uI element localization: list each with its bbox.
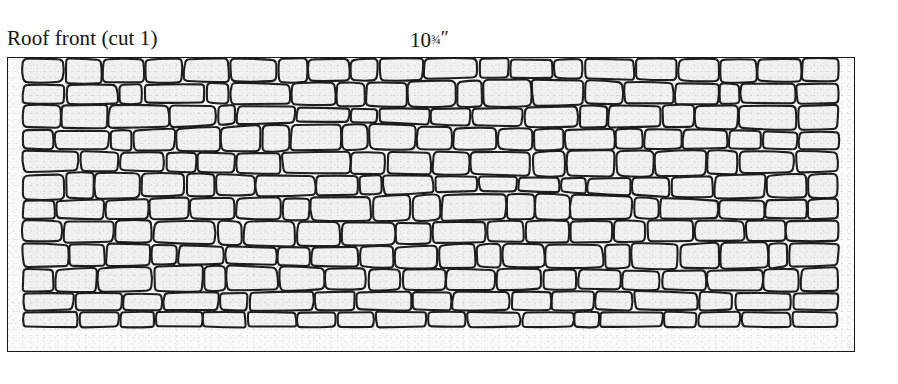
stone-tile xyxy=(61,105,107,128)
stone-tile xyxy=(802,58,839,81)
stone-tile xyxy=(571,221,613,243)
stone-tile xyxy=(230,83,290,104)
stone-tile xyxy=(608,106,660,128)
stone-tile xyxy=(64,222,114,243)
stone-tile xyxy=(526,221,569,243)
stone-tile xyxy=(698,312,740,327)
stone-tile xyxy=(190,198,235,219)
stone-tile xyxy=(720,83,740,103)
stone-tile xyxy=(502,244,544,268)
stone-tile xyxy=(123,294,162,311)
stone-tile xyxy=(244,221,295,247)
stone-tile xyxy=(616,151,653,177)
stone-tile xyxy=(80,151,118,171)
stone-tile xyxy=(446,269,495,290)
inch-mark-icon: ″ xyxy=(441,27,449,48)
stone-tile xyxy=(308,59,350,81)
stone-tile xyxy=(67,84,118,104)
stone-tile xyxy=(578,269,621,289)
stone-tile xyxy=(512,292,551,311)
stone-tile xyxy=(351,152,385,174)
stone-tile xyxy=(720,59,757,82)
stone-tile xyxy=(105,199,148,219)
stone-tile xyxy=(248,312,296,327)
stone-tile xyxy=(605,244,630,268)
stone-tile xyxy=(428,312,465,327)
stone-tile xyxy=(662,270,706,290)
stone-tile xyxy=(431,108,471,125)
stone-tile xyxy=(133,129,175,151)
stone-tile xyxy=(799,132,840,150)
stone-tile xyxy=(707,270,763,291)
stone-tile xyxy=(655,150,707,176)
stone-tile xyxy=(660,198,718,219)
stone-tile xyxy=(524,106,578,127)
stone-tile xyxy=(567,150,615,176)
stone-tile xyxy=(767,174,807,198)
stone-tile xyxy=(22,244,68,267)
stone-tile xyxy=(467,312,520,327)
stone-tile xyxy=(152,245,177,265)
stone-tile xyxy=(624,82,674,103)
stone-tile xyxy=(167,153,197,173)
stone-tile xyxy=(545,245,603,269)
stone-tile xyxy=(297,312,336,327)
stone-tile xyxy=(480,58,509,77)
stone-tile xyxy=(142,173,185,196)
stone-tile xyxy=(282,152,351,174)
stone-tile xyxy=(218,221,242,245)
stone-tile xyxy=(631,243,677,269)
stone-tile xyxy=(793,312,838,327)
stone-tile xyxy=(518,178,559,193)
stone-tile xyxy=(278,247,310,266)
stone-tile xyxy=(801,267,838,291)
stone-tile xyxy=(279,266,324,290)
stone-tile xyxy=(634,291,697,310)
stone-tile xyxy=(236,198,281,220)
measurement-fraction: ¾ xyxy=(431,32,441,47)
stone-tile xyxy=(23,130,54,149)
stone-tile xyxy=(740,84,795,104)
stone-tile xyxy=(457,81,482,108)
stone-tile xyxy=(376,312,426,328)
stone-tile xyxy=(55,131,110,149)
stone-tile xyxy=(360,246,393,268)
stone-tile xyxy=(311,247,358,267)
stone-tile xyxy=(765,200,807,219)
stone-tile xyxy=(221,125,261,151)
stone-tile xyxy=(396,223,431,244)
stone-tile xyxy=(614,220,645,241)
stone-tile xyxy=(648,220,694,241)
stone-tile xyxy=(23,175,64,200)
stone-tile xyxy=(664,312,696,327)
stone-tile xyxy=(351,59,378,81)
stone-tile xyxy=(23,85,65,104)
stone-tile xyxy=(342,124,368,150)
stone-tile xyxy=(678,59,719,82)
stone-tile xyxy=(408,81,456,108)
stone-tile xyxy=(23,105,61,128)
stone-tile xyxy=(187,173,215,196)
stone-tile xyxy=(149,198,188,220)
stone-tile xyxy=(283,198,310,220)
stone-tile xyxy=(262,125,289,152)
stone-tile xyxy=(220,293,247,311)
stone-tile xyxy=(383,175,434,194)
stone-tile xyxy=(145,59,182,83)
stone-tile xyxy=(644,129,681,149)
stone-tile xyxy=(565,129,615,150)
stone-tile xyxy=(366,82,407,106)
stone-tile xyxy=(395,246,437,269)
stone-tile xyxy=(315,292,355,311)
stone-tile xyxy=(413,195,441,221)
stone-tile xyxy=(763,269,798,292)
stone-tile xyxy=(360,175,382,194)
stone-tile xyxy=(417,127,452,150)
stone-tile xyxy=(380,108,430,124)
stone-tile xyxy=(595,291,632,310)
stone-tile xyxy=(23,293,73,311)
stone-tile xyxy=(424,58,477,79)
stone-tile xyxy=(369,269,401,291)
stone-tile xyxy=(198,153,235,173)
stone-tile xyxy=(225,247,276,265)
